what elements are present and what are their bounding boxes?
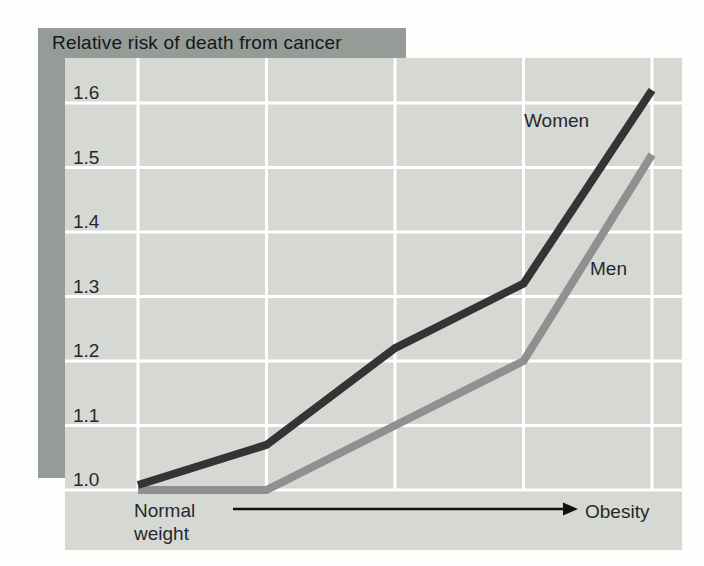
y-tick-label: 1.4 <box>73 211 117 232</box>
x-axis-label-obesity: Obesity <box>585 500 649 523</box>
x-axis-arrow <box>233 503 578 516</box>
y-tick-label: 1.2 <box>73 340 117 361</box>
y-tick-label: 1.0 <box>73 469 117 490</box>
y-tick-label: 1.6 <box>73 82 117 103</box>
y-tick-label: 1.3 <box>73 276 117 297</box>
men-series-label: Men <box>590 258 627 280</box>
women-series-label: Women <box>524 110 589 132</box>
x-axis-label-normal-weight: Normal weight <box>134 499 195 545</box>
y-tick-label: 1.5 <box>73 147 117 168</box>
y-tick-label: 1.1 <box>73 405 117 426</box>
cancer-risk-figure: Relative risk of death from cancer 1.01.… <box>0 0 704 566</box>
